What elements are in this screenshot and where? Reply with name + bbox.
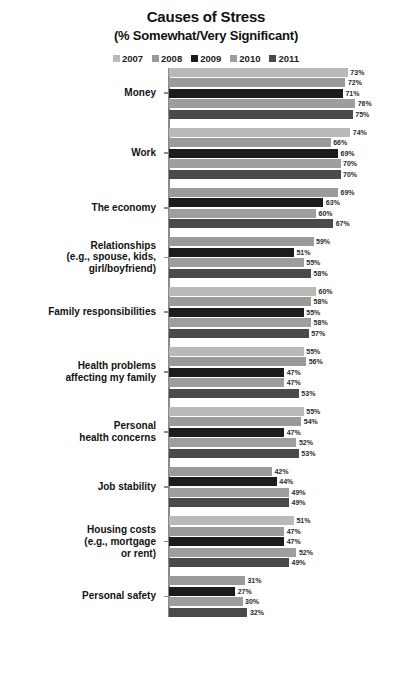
bar (169, 527, 284, 536)
category-label-line: or rent) (0, 548, 156, 560)
bar-row-2008: 54% (169, 417, 412, 426)
category-label-line: affecting my family (0, 372, 156, 384)
bar-value-label: 31% (247, 577, 261, 584)
legend-item-label: 2008 (161, 53, 182, 64)
legend-item-label: 2007 (122, 53, 143, 64)
bar (169, 368, 284, 377)
bar-value-label: 49% (292, 489, 306, 496)
bar (169, 110, 353, 119)
bar (169, 467, 272, 476)
bar (169, 548, 296, 557)
bar-value-label: 69% (341, 189, 355, 196)
bar (169, 128, 350, 137)
bar (169, 318, 311, 327)
legend-item-2009: 2009 (191, 53, 221, 64)
group-spacer (0, 228, 412, 237)
bar-track: 69%63%60%67% (162, 188, 412, 229)
category-label: Work (0, 147, 162, 159)
legend-swatch-icon (152, 55, 159, 62)
bar-row-2010: 55% (169, 258, 412, 267)
bar (169, 68, 348, 77)
plot-area: Money73%72%71%76%75%Work74%66%69%70%70%T… (0, 68, 412, 617)
legend-swatch-icon (269, 55, 276, 62)
bar-row-2011: 53% (169, 449, 412, 458)
bar-row-2009: 27% (169, 587, 412, 596)
bar (169, 287, 316, 296)
bar-value-label: 32% (250, 609, 264, 616)
bar-row-2009: 44% (169, 477, 412, 486)
bar (169, 138, 331, 147)
category-label-line: Housing costs (0, 524, 156, 536)
bar-row-2009: 63% (169, 198, 412, 207)
category-label-line: Personal safety (0, 590, 156, 602)
bar-value-label: 56% (309, 358, 323, 365)
category-label-line: Family responsibilities (0, 306, 156, 318)
bar-group: Personal safety31%27%30%32% (0, 576, 412, 617)
bar-row-2008: 58% (169, 297, 412, 306)
bar-row-2008: 66% (169, 138, 412, 147)
bar-track: 74%66%69%70%70% (162, 128, 412, 179)
bar (169, 498, 289, 507)
category-label-line: The economy (0, 202, 156, 214)
bar-group: Relationships(e.g., spouse, kids,girl/bo… (0, 237, 412, 278)
bar-value-label: 42% (274, 468, 288, 475)
bar (169, 357, 306, 366)
bar-row-2008: 69% (169, 188, 412, 197)
bar-value-label: 70% (343, 171, 357, 178)
bar-row-2008: 72% (169, 78, 412, 87)
category-label: Housing costs(e.g., mortgageor rent) (0, 524, 162, 559)
bar (169, 347, 304, 356)
bar (169, 329, 309, 338)
category-label-line: girl/boyfriend) (0, 263, 156, 275)
bar-value-label: 47% (287, 379, 301, 386)
legend-item-2011: 2011 (269, 53, 299, 64)
bar (169, 170, 341, 179)
bar (169, 198, 323, 207)
bar (169, 99, 355, 108)
legend-swatch-icon (113, 55, 120, 62)
chart-header: Causes of Stress (% Somewhat/Very Signif… (0, 0, 412, 45)
bar-value-label: 53% (301, 450, 315, 457)
bar (169, 597, 243, 606)
bar-value-label: 58% (314, 298, 328, 305)
category-label-line: health concerns (0, 432, 156, 444)
category-label: Personalhealth concerns (0, 420, 162, 444)
bar-value-label: 52% (299, 549, 313, 556)
group-spacer (0, 398, 412, 407)
category-label-line: Money (0, 87, 156, 99)
bar-row-2011: 67% (169, 219, 412, 228)
bar-row-2011: 32% (169, 608, 412, 617)
bar (169, 89, 343, 98)
bar (169, 477, 277, 486)
bar-row-2010: 47% (169, 378, 412, 387)
bar (169, 297, 311, 306)
bar-row-2011: 57% (169, 329, 412, 338)
group-spacer (0, 179, 412, 188)
bar-row-2010: 70% (169, 159, 412, 168)
bar (169, 516, 294, 525)
bar-row-2007: 73% (169, 68, 412, 77)
bar-value-label: 53% (301, 390, 315, 397)
group-spacer (0, 278, 412, 287)
bar-value-label: 72% (348, 79, 362, 86)
bar-row-2011: 70% (169, 170, 412, 179)
bar (169, 576, 245, 585)
group-spacer (0, 507, 412, 516)
group-spacer (0, 567, 412, 576)
bar-value-label: 74% (353, 129, 367, 136)
bar (169, 159, 341, 168)
category-label: Health problemsaffecting my family (0, 360, 162, 384)
bar-value-label: 60% (319, 288, 333, 295)
bar (169, 248, 294, 257)
category-label: Relationships(e.g., spouse, kids,girl/bo… (0, 240, 162, 275)
chart-subtitle: (% Somewhat/Very Significant) (0, 28, 412, 45)
bar-row-2009: 47% (169, 428, 412, 437)
stress-causes-chart: Causes of Stress (% Somewhat/Very Signif… (0, 0, 412, 684)
category-label: Family responsibilities (0, 306, 162, 318)
bar-value-label: 51% (296, 249, 310, 256)
bar-row-2011: 58% (169, 269, 412, 278)
bar-value-label: 63% (326, 199, 340, 206)
bar (169, 149, 338, 158)
bar (169, 407, 304, 416)
bar-row-2007: 74% (169, 128, 412, 137)
